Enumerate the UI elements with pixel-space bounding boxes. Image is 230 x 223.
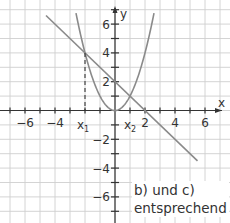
x-tick-label: 6 [201,116,209,130]
y-tick-label: −4 [92,162,110,176]
x-axis-label: x [218,96,225,110]
exercise-note: b) und c) entsprechend [132,181,229,217]
y-tick-label: 2 [102,75,110,89]
x-tick-label: −6 [16,116,34,130]
x1-label: x1 [77,118,89,134]
y-axis-label: y [120,7,127,21]
y-tick-label: −2 [92,133,110,147]
y-tick-label: 6 [102,18,110,32]
x-tick-label: −4 [46,116,64,130]
y-tick-label: 4 [102,46,110,60]
note-line-2: entsprechend [134,199,227,217]
x-tick-label: 4 [171,116,179,130]
x2-label: x2 [124,118,136,134]
x-tick-label: 2 [141,116,149,130]
y-tick-label: −6 [92,190,110,204]
note-line-1: b) und c) [134,181,227,199]
